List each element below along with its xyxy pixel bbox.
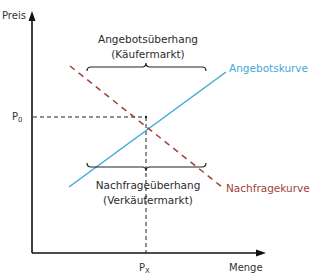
y-axis-arrow-icon — [29, 11, 36, 21]
surplus-label: Angebotsüberhang (Käufermarkt) — [98, 32, 198, 62]
supply-curve — [69, 72, 226, 187]
surplus-label-line1: Angebotsüberhang — [98, 32, 198, 47]
surplus-label-line2: (Käufermarkt) — [98, 47, 198, 62]
supply-curve-label: Angebotskurve — [229, 62, 308, 74]
price-marker: P0 — [12, 111, 23, 126]
demand-curve-label: Nachfragekurve — [226, 182, 310, 194]
shortage-label: Nachfrageüberhang (Verkäufermarkt) — [96, 178, 201, 208]
shortage-label-line1: Nachfrageüberhang — [96, 178, 201, 193]
quantity-marker: PX — [139, 262, 150, 277]
x-axis-label: Menge — [229, 262, 263, 274]
shortage-label-line2: (Verkäufermarkt) — [96, 193, 201, 208]
price-marker-sub: 0 — [18, 116, 22, 124]
quantity-marker-sub: X — [145, 267, 150, 275]
surplus-bracket — [87, 63, 206, 71]
supply-demand-diagram: Preis Menge P0 PX Angebotskurve Nachfrag… — [0, 0, 310, 278]
equilibrium-point — [145, 116, 147, 118]
y-axis-label: Preis — [2, 10, 26, 22]
x-axis-arrow-icon — [256, 250, 266, 257]
